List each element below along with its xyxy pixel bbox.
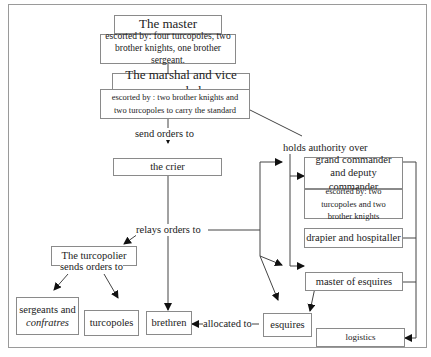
edge-label-allocated: allocated to (203, 318, 252, 330)
node-label: sergeants and (19, 303, 76, 316)
node-master-of-esquires: master of esquires (305, 272, 403, 291)
node-turcopoles: turcopoles (84, 310, 139, 336)
node-label-italic: confratres (26, 316, 69, 329)
node-label: master of esquires (316, 275, 392, 288)
edge-label-send-orders: send orders to (135, 128, 194, 140)
node-label: turcopoles (90, 316, 134, 329)
node-marshal-escort: escorted by : two brother knights and tw… (100, 89, 250, 119)
node-label: esquires (270, 318, 304, 331)
node-grand-commander-escort: escorted by: two turcopoles and two brot… (304, 189, 403, 219)
node-label: escorted by: four turcopoles, two brothe… (105, 31, 231, 67)
node-crier: the crier (113, 158, 222, 176)
node-esquires: esquires (263, 313, 312, 337)
node-label: escorted by : two brother knights and tw… (107, 91, 243, 117)
node-sergeants-confratres: sergeants and confratres (16, 297, 79, 335)
node-label: drapier and hospitaller (306, 231, 400, 244)
edge-label-sends-orders: sends orders to (60, 261, 123, 273)
node-logistics: logistics (316, 328, 405, 347)
node-master-escort: escorted by: four turcopoles, two brothe… (100, 34, 236, 64)
node-brethren: brethren (146, 311, 192, 335)
node-label: brethren (152, 316, 187, 329)
node-label: logistics (345, 332, 375, 343)
edge-label-relays-orders: relays orders to (136, 224, 201, 236)
node-label: the crier (150, 160, 185, 173)
node-label: escorted by: two turcopoles and two brot… (309, 185, 398, 223)
node-label: The master (139, 16, 197, 32)
node-drapier: drapier and hospitaller (304, 228, 403, 248)
